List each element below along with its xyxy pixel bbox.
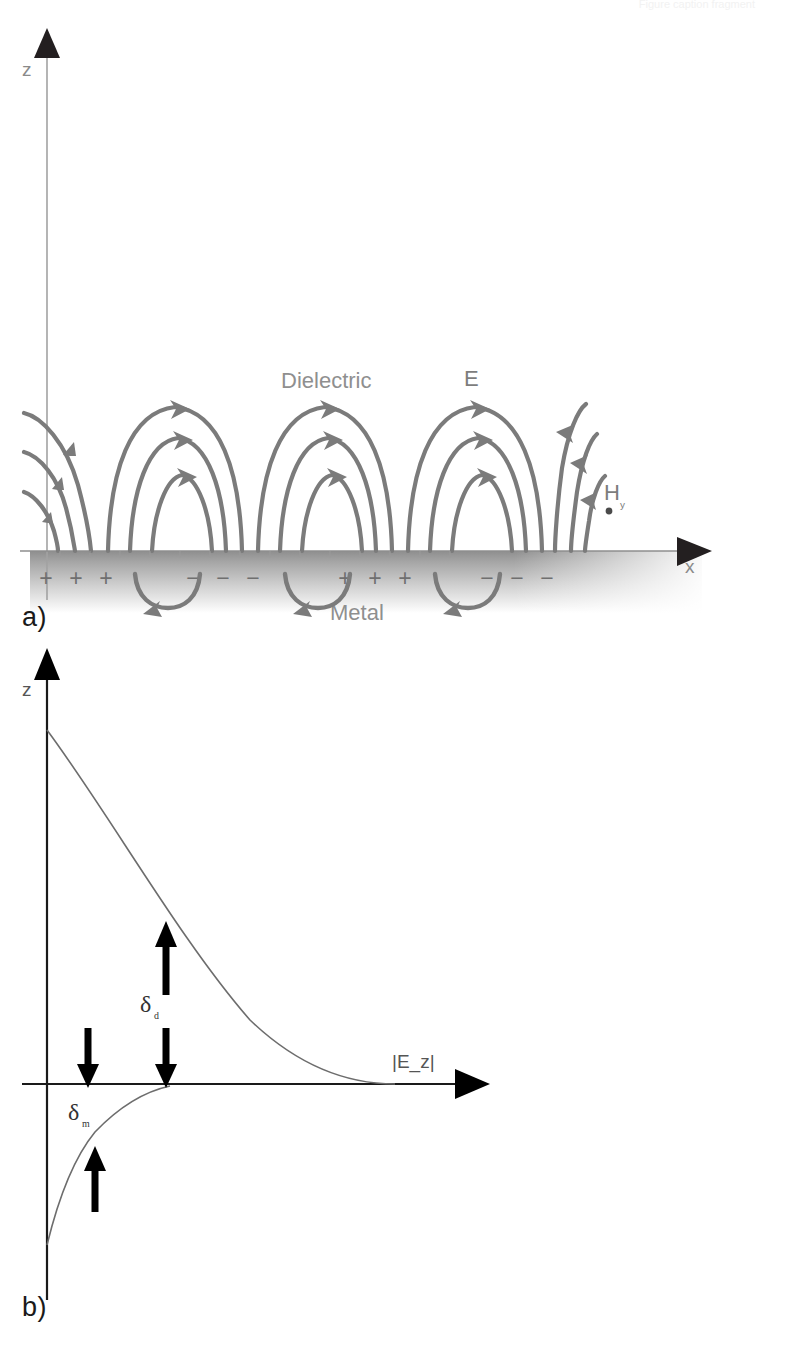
e-field-label: E [464,366,479,391]
charge-symbol: + [99,565,112,591]
dielectric-label: Dielectric [281,368,371,393]
panel-a-svg: z x [0,0,795,660]
b-z-axis [34,648,60,1300]
field-arrowheads [170,400,597,510]
charge-symbol: − [510,565,523,591]
z-axis-arrowhead [34,28,60,58]
delta-d-subscript: d [154,1010,159,1021]
dielectric-decay-curve [47,730,395,1084]
charge-symbol: + [39,565,52,591]
delta-m-subscript: m [82,1118,90,1129]
field-line-right-3 [585,476,605,551]
panel-b-label: b) [22,1292,47,1323]
b-x-axis-arrowhead [455,1069,490,1099]
delta-m-label: δ [68,1099,79,1125]
panel-a-label: a) [22,602,47,633]
delta-m-top-down-arrow [77,1028,99,1088]
ez-magnitude-label-group: |E_z| [392,1051,435,1073]
h-field-label: H [604,480,620,505]
b-z-axis-label: z [22,679,32,700]
ez-magnitude-label: |E_z| [392,1051,435,1073]
field-arch-1-inner [152,475,212,551]
field-arch-3-inner [452,475,512,551]
field-arch-2-inner [302,475,362,551]
charge-symbol: − [216,565,229,591]
charge-symbol: − [246,565,259,591]
h-field-subscript: y [620,499,625,510]
delta-m-up-arrow [84,1146,106,1212]
metal-decay-curve [47,1086,170,1245]
delta-m-label-group: δ m [68,1099,90,1129]
panel-b: z |E_z| [0,640,795,1361]
delta-d-down-arrow [155,1028,177,1088]
field-line-left-3 [24,492,58,551]
charge-symbol: + [398,565,411,591]
panel-b-svg: z |E_z| [0,640,795,1361]
panel-a: z x [0,0,795,660]
electric-field-lines [24,404,605,551]
charge-symbol: + [69,565,82,591]
delta-d-label-group: δ d [140,991,159,1021]
delta-d-up-arrow [155,921,177,995]
figure-root: Figure caption fragment [0,0,795,1361]
charge-symbol: − [480,565,493,591]
x-axis-label: x [685,556,695,577]
field-line-right-2 [571,434,597,551]
field-line-left-2 [24,452,75,551]
b-z-axis-arrowhead [34,648,60,680]
h-field-label-group: H y [604,480,625,514]
h-field-out-of-page-dot [606,508,613,515]
charge-symbol: + [368,565,381,591]
z-axis-label: z [22,59,32,80]
charge-symbol: − [540,565,553,591]
delta-d-label: δ [140,991,151,1017]
